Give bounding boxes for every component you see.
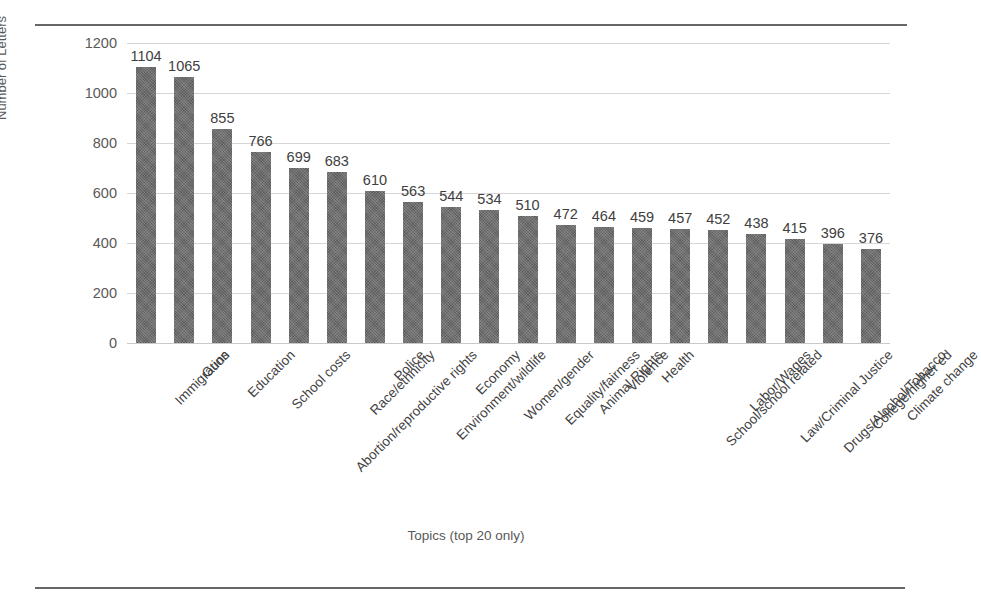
bar-value-label: 1065 <box>158 59 210 74</box>
gridline <box>127 243 890 244</box>
x-axis-tick-label: Guns <box>200 348 232 380</box>
y-axis-tick-label: 600 <box>57 186 117 201</box>
x-axis-tick-label: Education <box>246 348 298 400</box>
bar-value-label: 766 <box>235 134 287 149</box>
bar[interactable] <box>136 67 156 343</box>
bar[interactable] <box>556 225 576 343</box>
y-axis-tick-label: 400 <box>57 236 117 251</box>
bar-value-label: 376 <box>845 231 897 246</box>
bar[interactable] <box>594 227 614 343</box>
bar[interactable] <box>365 191 385 344</box>
y-axis-tick-label: 1200 <box>57 36 117 51</box>
gridline <box>127 93 890 94</box>
bar[interactable] <box>212 129 232 343</box>
bar[interactable] <box>518 216 538 344</box>
bar[interactable] <box>670 229 690 343</box>
bar[interactable] <box>174 77 194 343</box>
y-axis-tick-label: 800 <box>57 136 117 151</box>
bar[interactable] <box>785 239 805 343</box>
x-axis-title: Topics (top 20 only) <box>0 528 932 543</box>
bar[interactable] <box>403 202 423 343</box>
y-axis-tick-label: 0 <box>57 336 117 351</box>
y-axis-tick-label: 200 <box>57 286 117 301</box>
y-axis-title: Number of Letters <box>0 0 9 120</box>
bar-value-label: 855 <box>196 111 248 126</box>
bar[interactable] <box>632 228 652 343</box>
bar[interactable] <box>441 207 461 343</box>
bar[interactable] <box>861 249 881 343</box>
x-axis-tick-label: School costs <box>289 348 353 412</box>
gridline <box>127 293 890 294</box>
bar[interactable] <box>479 210 499 344</box>
y-axis-tick-label: 1000 <box>57 86 117 101</box>
x-axis-tick-label: Labor/Wages <box>748 348 814 414</box>
bar[interactable] <box>289 168 309 343</box>
bar[interactable] <box>823 244 843 343</box>
bar[interactable] <box>251 152 271 344</box>
gridline <box>127 343 890 344</box>
bar[interactable] <box>327 172 347 343</box>
plot-area: 1104106585576669968361056354453451047246… <box>127 43 890 343</box>
bar[interactable] <box>708 230 728 343</box>
bar[interactable] <box>746 234 766 344</box>
bar-value-label: 683 <box>311 154 363 169</box>
gridline <box>127 43 890 44</box>
